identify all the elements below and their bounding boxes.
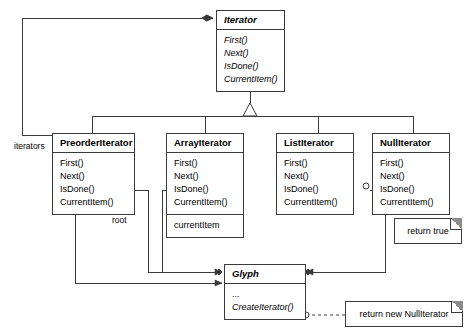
note-text: return new NullIterator (345, 301, 463, 327)
class-name-glyph: Glyph (225, 265, 305, 284)
operation-item: Next() (224, 47, 277, 60)
class-box-preorderiterator[interactable]: PreorderIterator First() Next() IsDone()… (52, 133, 135, 215)
class-box-glyph[interactable]: Glyph ... CreateIterator() (224, 264, 306, 320)
note-fold-corner-icon (450, 218, 462, 230)
class-name-preorderiterator: PreorderIterator (53, 134, 134, 153)
operation-item: IsDone() (224, 60, 277, 73)
attribute-item: currentItem (174, 219, 236, 232)
operation-item: CurrentItem() (174, 196, 236, 209)
uml-diagram-canvas: Iterator First() Next() IsDone() Current… (0, 0, 467, 335)
edge-label-iterators: iterators (13, 141, 46, 151)
class-name-arrayiterator: ArrayIterator (167, 134, 243, 153)
operation-item: Next() (380, 170, 442, 183)
operation-item: Next() (60, 170, 127, 183)
note-fold-corner-icon (451, 301, 463, 313)
operation-item: IsDone() (60, 183, 127, 196)
note-return-new-nulliterator[interactable]: return new NullIterator (345, 301, 463, 327)
operations-compartment-listiterator: First() Next() IsDone() CurrentItem() (277, 153, 353, 214)
class-box-arrayiterator[interactable]: ArrayIterator First() Next() IsDone() Cu… (166, 133, 244, 238)
attributes-compartment-arrayiterator: currentItem (167, 215, 243, 237)
operation-item: First() (174, 157, 236, 170)
operation-item: CurrentItem() (284, 196, 346, 209)
class-name-nulliterator: NullIterator (373, 134, 449, 153)
operation-item: IsDone() (380, 183, 442, 196)
operation-item: First() (380, 157, 442, 170)
class-box-iterator[interactable]: Iterator First() Next() IsDone() Current… (216, 10, 285, 92)
operation-item: CurrentItem() (224, 73, 277, 86)
operation-item: IsDone() (284, 183, 346, 196)
class-name-listiterator: ListIterator (277, 134, 353, 153)
edge-label-root: root (111, 215, 128, 225)
operations-compartment-preorderiterator: First() Next() IsDone() CurrentItem() (53, 153, 134, 214)
operation-item: First() (284, 157, 346, 170)
note-return-true[interactable]: return true (394, 218, 462, 244)
operations-compartment-iterator: First() Next() IsDone() CurrentItem() (217, 30, 284, 91)
operations-compartment-arrayiterator: First() Next() IsDone() CurrentItem() (167, 153, 243, 215)
operations-compartment-nulliterator: First() Next() IsDone() CurrentItem() (373, 153, 449, 214)
operation-item: IsDone() (174, 183, 236, 196)
operation-item: CreateIterator() (232, 301, 298, 314)
operation-item: First() (60, 157, 127, 170)
members-compartment-glyph: ... CreateIterator() (225, 284, 305, 319)
attribute-item: ... (232, 288, 298, 301)
class-name-iterator: Iterator (217, 11, 284, 30)
class-box-listiterator[interactable]: ListIterator First() Next() IsDone() Cur… (276, 133, 354, 215)
operation-item: CurrentItem() (380, 196, 442, 209)
operation-item: Next() (284, 170, 346, 183)
operation-item: Next() (174, 170, 236, 183)
class-box-nulliterator[interactable]: NullIterator First() Next() IsDone() Cur… (372, 133, 450, 215)
operation-item: First() (224, 34, 277, 47)
operation-item: CurrentItem() (60, 196, 127, 209)
